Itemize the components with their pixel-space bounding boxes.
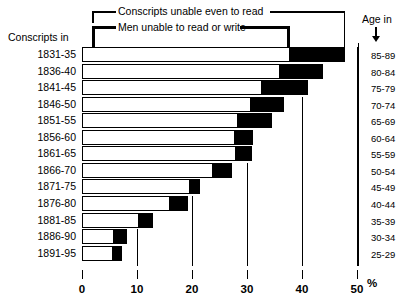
bar-segment-read-write (82, 229, 114, 244)
x-tick-label-20: 20 (177, 283, 207, 295)
category-label-1861-65: 1861-65 (0, 148, 76, 159)
category-label-1841-45: 1841-45 (0, 82, 76, 93)
bar-segment-unable-to-read (289, 47, 345, 62)
x-tick-label-0: 0 (67, 283, 97, 295)
x-tick-label-10: 10 (122, 283, 152, 295)
bar-segment-unable-to-read (189, 179, 200, 194)
category-label-1866-70: 1866-70 (0, 165, 76, 176)
bar-segment-read-write (82, 64, 280, 79)
bar-segment-unable-to-read (212, 163, 232, 178)
bar-segment-read-write (82, 246, 113, 261)
bar-segment-read-write (82, 163, 213, 178)
bar-segment-unable-to-read (250, 97, 284, 112)
x-tick-50 (357, 270, 358, 279)
age-label-65-69: 65-69 (371, 116, 395, 127)
x-tick-40 (302, 270, 303, 279)
category-label-1871-75: 1871-75 (0, 181, 76, 192)
x-tick-20 (192, 270, 193, 279)
bar-segment-read-write (82, 146, 236, 161)
category-label-1881-85: 1881-85 (0, 215, 76, 226)
bar-segment-read-write (82, 130, 235, 145)
bar-segment-read-write (82, 196, 170, 211)
bar-segment-unable-to-read (234, 130, 253, 145)
bar-segment-read-write (82, 179, 190, 194)
category-label-1891-95: 1891-95 (0, 248, 76, 259)
age-label-40-44: 40-44 (371, 199, 395, 210)
age-label-85-89: 85-89 (371, 50, 395, 61)
bar-segment-unable-to-read (235, 146, 252, 161)
age-label-70-74: 70-74 (371, 100, 395, 111)
bar-segment-read-write (82, 80, 262, 95)
x-tick-30 (247, 270, 248, 279)
category-label-1836-40: 1836-40 (0, 66, 76, 77)
chart-container: Conscripts unable even to read Men unabl… (0, 0, 401, 303)
bar-segment-unable-to-read (113, 229, 127, 244)
bar-segment-unable-to-read (237, 113, 272, 128)
x-tick-label-30: 30 (232, 283, 262, 295)
age-label-35-39: 35-39 (371, 216, 395, 227)
age-label-30-34: 30-34 (371, 232, 395, 243)
category-label-1831-35: 1831-35 (0, 49, 76, 60)
age-label-25-29: 25-29 (371, 249, 395, 260)
category-label-1886-90: 1886-90 (0, 231, 76, 242)
bar-segment-unable-to-read (138, 213, 153, 228)
bar-segment-read-write (82, 97, 251, 112)
x-tick-label-40: 40 (287, 283, 317, 295)
bar-segment-unable-to-read (279, 64, 323, 79)
category-label-1846-50: 1846-50 (0, 99, 76, 110)
age-label-50-54: 50-54 (371, 166, 395, 177)
category-label-1876-80: 1876-80 (0, 198, 76, 209)
age-label-45-49: 45-49 (371, 182, 395, 193)
x-tick-10 (137, 270, 138, 279)
bar-segment-read-write (82, 113, 238, 128)
age-label-55-59: 55-59 (371, 149, 395, 160)
bar-segment-unable-to-read (169, 196, 188, 211)
age-label-60-64: 60-64 (371, 133, 395, 144)
bar-segment-read-write (82, 213, 139, 228)
age-label-75-79: 75-79 (371, 83, 395, 94)
bar-segment-unable-to-read (261, 80, 308, 95)
bar-segment-unable-to-read (112, 246, 122, 261)
bar-segment-read-write (82, 47, 290, 62)
x-axis-unit: % (367, 277, 377, 289)
category-label-1851-55: 1851-55 (0, 115, 76, 126)
age-label-80-84: 80-84 (371, 67, 395, 78)
x-tick-0 (82, 270, 83, 279)
category-label-1856-60: 1856-60 (0, 132, 76, 143)
